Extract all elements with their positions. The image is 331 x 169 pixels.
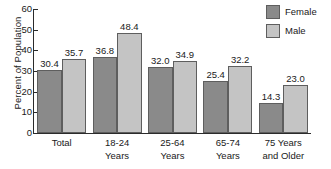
bar-male: [173, 61, 198, 133]
bar-female: [148, 67, 173, 133]
bar-male: [228, 66, 253, 133]
legend-label: Female: [285, 6, 317, 18]
legend-item[interactable]: Female: [266, 3, 330, 22]
bar-female: [203, 81, 228, 133]
y-axis-tick-label: 20: [2, 86, 32, 98]
bar-group: 36.848.4: [93, 9, 142, 133]
bar-group: 32.034.9: [148, 9, 197, 133]
bar-female: [93, 57, 118, 133]
bar-male: [117, 33, 142, 133]
bar-male: [283, 85, 308, 133]
bar-value-label: 34.9: [169, 49, 202, 60]
bar-value-label: 32.2: [224, 54, 257, 65]
y-axis-tick-label: 10: [2, 106, 32, 118]
bar-value-label: 48.4: [113, 21, 146, 32]
y-axis-tick-label: 60: [2, 3, 32, 15]
y-axis-tick-label: 30: [2, 65, 32, 77]
y-axis-tick-label: 40: [2, 44, 32, 56]
x-axis-line: [33, 133, 311, 134]
bar-group: 30.435.7: [37, 9, 86, 133]
legend-label: Male: [285, 25, 306, 37]
bar-female: [37, 70, 62, 133]
bar-male: [62, 59, 87, 133]
legend-swatch-icon: [266, 5, 280, 19]
y-axis-tick-label: 50: [2, 24, 32, 36]
legend-item[interactable]: Male: [266, 22, 330, 41]
legend-swatch-icon: [266, 24, 280, 38]
bar-value-label: 23.0: [279, 73, 312, 84]
bar-female: [259, 103, 284, 133]
bar-value-label: 35.7: [58, 47, 91, 58]
bar-chart: Percent of Population 0102030405060 30.4…: [0, 0, 331, 169]
legend: FemaleMale: [266, 3, 330, 41]
bar-group: 25.432.2: [203, 9, 252, 133]
x-axis-category-label: 75 Years and Older: [250, 137, 317, 162]
